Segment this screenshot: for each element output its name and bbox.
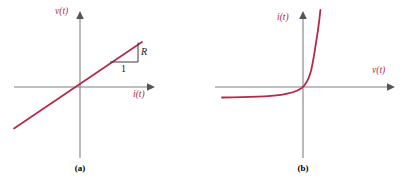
slope-rise-label: R [141,47,147,57]
panel-b-y-axis-label: i(t) [277,13,289,23]
panel-a-slope-triangle [110,43,138,63]
panel-a-plot [0,0,201,181]
panel-a-caption: (a) [68,164,92,173]
panel-b-plot [201,0,403,181]
panel-a-y-axis-label: v(t) [55,7,68,17]
panel-b-caption: (b) [291,164,315,173]
panel-a-curve-linear [14,42,142,129]
figure-container: v(t) i(t) R 1 (a) i(t) v(t) (b) [0,0,403,181]
panel-b-curve-exponential [222,10,320,98]
panel-a-linear-resistor: v(t) i(t) R 1 (a) [0,0,201,181]
slope-run-label: 1 [121,64,126,74]
panel-b-nonlinear-diode: i(t) v(t) (b) [201,0,403,181]
panel-b-x-axis-label: v(t) [372,66,385,76]
panel-a-x-axis-label: i(t) [133,90,145,100]
